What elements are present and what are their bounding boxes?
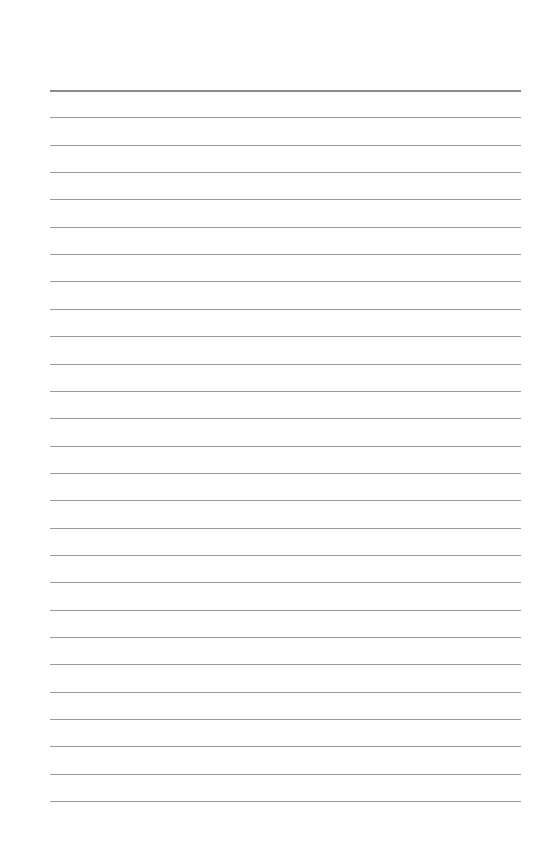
ruled-line	[50, 774, 521, 775]
ruled-line	[50, 719, 521, 720]
ruled-line	[50, 528, 521, 529]
ruled-line	[50, 391, 521, 392]
ruled-line	[50, 227, 521, 228]
ruled-line	[50, 418, 521, 419]
ruled-line	[50, 145, 521, 146]
ruled-line	[50, 637, 521, 638]
ruled-line	[50, 309, 521, 310]
ruled-line	[50, 582, 521, 583]
ruled-line	[50, 746, 521, 747]
ruled-line	[50, 473, 521, 474]
ruled-line	[50, 801, 521, 802]
ruled-line	[50, 446, 521, 447]
ruled-line	[50, 555, 521, 556]
ruled-line	[50, 199, 521, 200]
ruled-line	[50, 610, 521, 611]
ruled-line	[50, 336, 521, 337]
ruled-line	[50, 364, 521, 365]
ruled-line	[50, 500, 521, 501]
ruled-line	[50, 172, 521, 173]
ruled-line	[50, 281, 521, 282]
ruled-line	[50, 254, 521, 255]
ruled-line	[50, 90, 521, 92]
lined-paper-sheet	[0, 0, 535, 861]
ruled-line	[50, 664, 521, 665]
ruled-line	[50, 117, 521, 118]
ruled-line	[50, 692, 521, 693]
